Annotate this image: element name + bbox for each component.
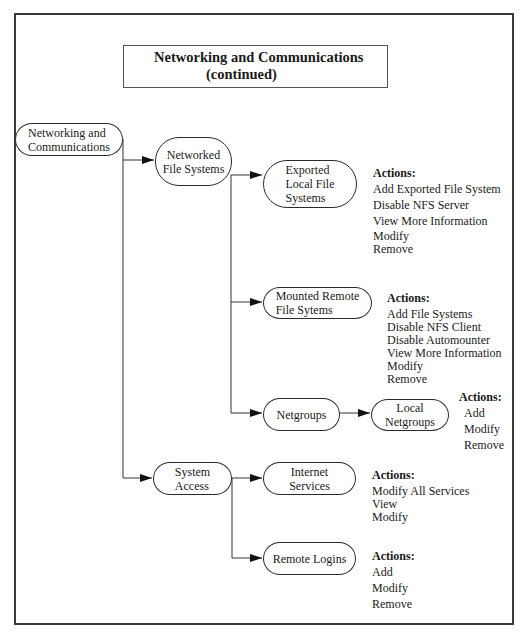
action-item[interactable]: Remove [372, 596, 415, 612]
actions-heading: Actions: [373, 165, 501, 181]
actions-mounted: Actions: Add File Systems Disable NFS Cl… [387, 292, 502, 386]
node-label: Exported Local File Systems [286, 163, 335, 205]
action-item[interactable]: Modify [373, 229, 501, 243]
action-item[interactable]: Add [372, 564, 415, 580]
actions-exported: Actions: Add Exported File System Disabl… [373, 165, 501, 256]
actions-internet-services: Actions: Modify All Services View Modify [372, 469, 469, 524]
action-item[interactable]: Add Exported File System [373, 181, 501, 197]
action-item[interactable]: View More Information [373, 213, 501, 229]
action-item[interactable]: Remove [387, 373, 502, 386]
actions-remote-logins: Actions: Add Modify Remove [372, 548, 415, 612]
action-item[interactable]: Add [459, 405, 504, 421]
node-label: Remote Logins [273, 552, 347, 566]
node-label: Mounted Remote File Sytems [276, 289, 360, 317]
node-system-access[interactable]: System Access [153, 462, 232, 495]
node-netgroups[interactable]: Netgroups [263, 398, 340, 431]
node-remote-logins[interactable]: Remote Logins [263, 542, 356, 575]
actions-heading: Actions: [372, 469, 469, 482]
node-mounted-remote-file-systems[interactable]: Mounted Remote File Sytems [263, 287, 372, 319]
node-label: Netgroups [277, 408, 327, 422]
node-internet-services[interactable]: Internet Services [263, 462, 356, 495]
node-label: Internet Services [289, 465, 330, 493]
action-item[interactable]: Modify [459, 421, 504, 437]
actions-heading: Actions: [372, 548, 415, 564]
action-item[interactable]: Remove [459, 437, 504, 453]
actions-heading: Actions: [459, 389, 504, 405]
action-item[interactable]: Modify [372, 511, 469, 524]
actions-local-netgroups: Actions: Add Modify Remove [459, 389, 504, 453]
node-label: Networking and Communications [28, 126, 110, 154]
action-item[interactable]: Disable NFS Server [373, 197, 501, 213]
actions-heading: Actions: [387, 292, 502, 305]
node-label: System Access [175, 465, 210, 493]
node-exported-local-file-systems[interactable]: Exported Local File Systems [263, 160, 357, 208]
node-networked-file-systems[interactable]: Networked File Systems [155, 137, 232, 186]
node-local-netgroups[interactable]: Local Netgroups [371, 399, 449, 431]
node-label: Networked File Systems [163, 148, 225, 176]
node-networking-and-communications[interactable]: Networking and Communications [15, 123, 123, 156]
action-item[interactable]: Remove [373, 243, 501, 256]
node-label: Local Netgroups [385, 401, 435, 429]
action-item[interactable]: Modify [372, 580, 415, 596]
